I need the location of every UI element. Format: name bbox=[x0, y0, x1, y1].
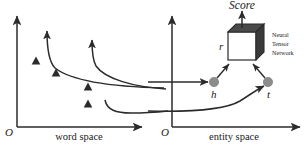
word-space-axis-label: word space bbox=[55, 131, 103, 142]
word-marker bbox=[32, 57, 41, 65]
projection-curve-up-left bbox=[47, 31, 164, 88]
figure-container: word space O h t bbox=[0, 0, 308, 146]
word-marker-group bbox=[32, 57, 93, 108]
word-space-origin-label: O bbox=[5, 126, 13, 138]
neural-tensor-network-label-line-2: Tensor bbox=[272, 40, 289, 47]
word-marker bbox=[84, 83, 93, 91]
relation-label: r bbox=[219, 40, 224, 52]
arrow-to-tail-entity bbox=[148, 86, 264, 111]
arrow-tail-to-tensor bbox=[253, 64, 265, 78]
entity-node-tail bbox=[263, 77, 272, 86]
score-label: Score bbox=[229, 0, 255, 11]
neural-tensor-network-label-line-1: Neural bbox=[272, 31, 289, 38]
word-space-plot: word space O bbox=[5, 16, 168, 142]
neural-tensor-network-label-line-3: Network bbox=[272, 49, 295, 56]
entity-space-plot: h t r Score Neural Tensor bbox=[148, 0, 300, 142]
arrow-head-to-tensor bbox=[217, 64, 229, 78]
neural-tensor-network-cube bbox=[228, 24, 264, 60]
entity-space-axis-label: entity space bbox=[209, 131, 259, 142]
entity-node-head bbox=[209, 77, 218, 86]
word-marker bbox=[84, 100, 93, 108]
entity-node-tail-label: t bbox=[267, 88, 271, 100]
cube-front-face bbox=[228, 32, 256, 60]
word-marker bbox=[52, 69, 61, 77]
entity-node-head-label: h bbox=[211, 88, 217, 100]
entity-space-origin-label: O bbox=[161, 126, 169, 138]
